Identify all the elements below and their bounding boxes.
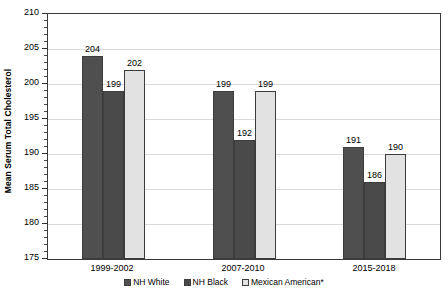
legend-item[interactable]: Mexican American* — [242, 277, 324, 287]
legend-item[interactable]: NH White — [124, 277, 169, 287]
legend-label: NH White — [133, 277, 169, 287]
legend-item[interactable]: NH Black — [184, 277, 228, 287]
y-tick-label: 175 — [24, 253, 39, 262]
y-tick-label: 180 — [24, 218, 39, 227]
bar — [234, 140, 255, 259]
y-tick-label: 210 — [24, 8, 39, 17]
bar — [364, 182, 385, 259]
legend-label: NH Black — [193, 277, 228, 287]
y-tick-label: 195 — [24, 113, 39, 122]
bar — [213, 91, 234, 259]
legend-swatch-icon — [242, 279, 249, 286]
legend-label: Mexican American* — [251, 277, 324, 287]
bar-value-label: 204 — [76, 44, 109, 54]
y-tick-label: 200 — [24, 78, 39, 87]
bar — [255, 91, 276, 259]
bar-value-label: 191 — [337, 135, 370, 145]
x-tick-label: 2007-2010 — [203, 263, 283, 273]
y-tick-label: 190 — [24, 148, 39, 157]
legend-swatch-icon — [124, 279, 131, 286]
y-axis: 175180185190195200205210 — [0, 13, 47, 259]
bar — [343, 147, 364, 259]
x-tick-label: 2015-2018 — [334, 263, 414, 273]
bar-value-label: 202 — [118, 58, 151, 68]
bar-chart: Mean Serum Total Cholesterol 17518018519… — [0, 0, 448, 293]
bar-value-label: 199 — [207, 79, 240, 89]
y-tick-label: 185 — [24, 183, 39, 192]
bar-value-label: 190 — [379, 142, 412, 152]
legend-swatch-icon — [184, 279, 191, 286]
y-axis-ticks: 175180185190195200205210 — [0, 13, 47, 259]
y-tick-label: 205 — [24, 43, 39, 52]
bar — [385, 154, 406, 259]
bar — [103, 91, 124, 259]
bar — [124, 70, 145, 259]
chart-legend: NH WhiteNH BlackMexican American* — [0, 277, 448, 287]
plot-area: 204199202199192199191186190 — [47, 13, 441, 260]
bar-value-label: 199 — [249, 79, 282, 89]
x-tick-label: 1999-2002 — [72, 263, 152, 273]
